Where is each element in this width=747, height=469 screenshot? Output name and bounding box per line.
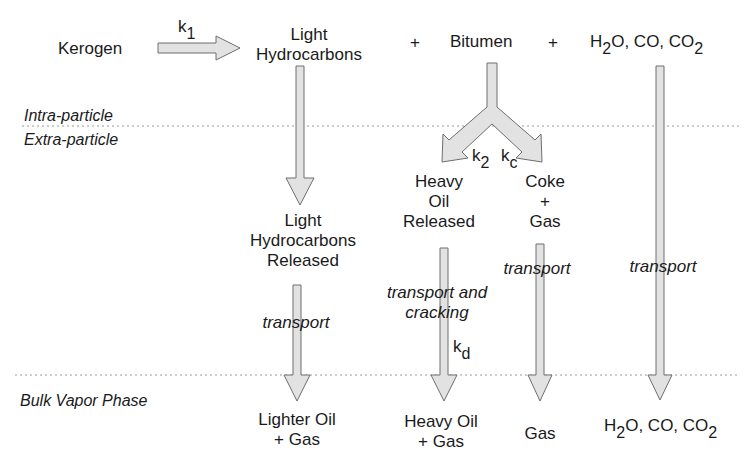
co-products-label: H2O, CO, CO2 — [604, 416, 717, 436]
gases-label: H2O, CO, CO2 — [590, 32, 703, 52]
zone-label-extra-particle: Extra-particle — [24, 131, 118, 149]
heavy-oil-released-label: Heavy Oil Released — [403, 172, 475, 232]
light-hydrocarbons-label: Light Hydrocarbons — [256, 25, 362, 65]
rate-kd: kd — [453, 337, 470, 357]
arrow-bitumen-fork-icon — [442, 63, 542, 162]
zone-label-bulk-vapor: Bulk Vapor Phase — [20, 392, 147, 410]
heavy-oil-gas-label: Heavy Oil + Gas — [404, 412, 478, 452]
arrow-light-transport-icon — [284, 285, 310, 401]
transport-label-co: transport — [629, 257, 696, 277]
arrow-gases-down-icon — [648, 66, 672, 400]
zone-label-intra-particle: Intra-particle — [24, 107, 113, 125]
transport-label-gas: transport — [503, 259, 570, 279]
rate-k2: k2 — [472, 146, 489, 166]
kerogen-label: Kerogen — [58, 39, 122, 59]
coke-gas-label: Coke + Gas — [525, 172, 565, 232]
gas-product-label: Gas — [524, 424, 555, 444]
rate-k1: k1 — [178, 17, 195, 37]
rate-kc: kc — [501, 146, 518, 166]
plus-sign-2: + — [548, 33, 558, 53]
light-hc-released-label: Light Hydrocarbons Released — [250, 211, 356, 271]
lighter-oil-gas-label: Lighter Oil + Gas — [258, 410, 335, 450]
arrow-k1-icon — [158, 36, 240, 60]
arrow-heavy-transport-icon — [431, 248, 457, 401]
plus-sign-1: + — [410, 33, 420, 53]
reaction-diagram: Intra-particle Extra-particle Bulk Vapor… — [0, 0, 747, 469]
transport-cracking-label: transport and cracking — [387, 283, 487, 323]
arrow-light-hc-down-icon — [286, 66, 314, 205]
bitumen-label: Bitumen — [450, 32, 512, 52]
transport-label-light: transport — [262, 313, 329, 333]
